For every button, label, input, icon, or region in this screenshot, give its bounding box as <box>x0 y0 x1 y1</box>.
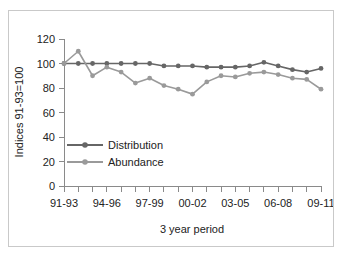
chart-figure: 020406080100120 91-9394-9697-9900-0203-0… <box>0 0 343 257</box>
data-point <box>204 79 209 84</box>
data-point <box>247 71 252 76</box>
y-axis-title: Indices 91-93=100 <box>13 67 25 158</box>
data-point <box>76 61 81 66</box>
data-point <box>219 65 224 70</box>
data-point <box>176 87 181 92</box>
data-point <box>304 77 309 82</box>
line-chart: 020406080100120 91-9394-9697-9900-0203-0… <box>9 11 333 246</box>
x-tick-label: 03-05 <box>221 197 249 209</box>
data-point <box>119 70 124 75</box>
data-point <box>319 66 324 71</box>
data-point <box>304 70 309 75</box>
x-tick-label: 94-96 <box>93 197 121 209</box>
data-point <box>90 73 95 78</box>
chart-legend: DistributionAbundance <box>67 139 164 168</box>
y-tick-label: 40 <box>43 131 55 143</box>
x-axis-title: 3 year period <box>160 223 224 235</box>
data-point <box>76 49 81 54</box>
legend-item-abundance[interactable]: Abundance <box>67 156 164 168</box>
y-tick-label: 80 <box>43 82 55 94</box>
y-tick-label: 120 <box>37 33 55 45</box>
data-point <box>147 76 152 81</box>
data-point <box>162 64 167 69</box>
data-point <box>261 60 266 65</box>
series-abundance <box>62 49 324 97</box>
legend-item-distribution[interactable]: Distribution <box>67 139 163 151</box>
y-tick-label: 100 <box>37 58 55 70</box>
data-point <box>190 92 195 97</box>
data-point <box>233 75 238 80</box>
x-axis-ticks <box>64 186 321 192</box>
legend-swatch-marker <box>82 142 88 148</box>
data-point <box>204 65 209 70</box>
data-point <box>319 87 324 92</box>
data-point <box>133 61 138 66</box>
x-tick-label: 97-99 <box>136 197 164 209</box>
data-point <box>90 61 95 66</box>
legend-label: Abundance <box>108 156 164 168</box>
series-layer <box>62 49 324 97</box>
y-tick-label: 20 <box>43 156 55 168</box>
y-tick-label: 60 <box>43 107 55 119</box>
data-point <box>147 61 152 66</box>
data-point <box>62 61 67 66</box>
legend-label: Distribution <box>108 139 163 151</box>
series-distribution <box>62 60 324 75</box>
x-tick-label: 06-08 <box>264 197 292 209</box>
data-point <box>219 73 224 78</box>
series-path <box>64 51 321 94</box>
data-point <box>233 65 238 70</box>
data-point <box>290 76 295 81</box>
data-point <box>261 70 266 75</box>
data-point <box>190 64 195 69</box>
data-point <box>119 61 124 66</box>
data-point <box>133 81 138 86</box>
x-tick-label: 00-02 <box>178 197 206 209</box>
y-axis-ticks: 020406080100120 <box>37 33 64 192</box>
data-point <box>247 64 252 69</box>
x-tick-label: 09-11 <box>307 197 333 209</box>
data-point <box>276 72 281 77</box>
data-point <box>162 83 167 88</box>
data-point <box>290 67 295 72</box>
data-point <box>176 64 181 69</box>
chart-frame: 020406080100120 91-9394-9697-9900-0203-0… <box>8 10 334 247</box>
data-point <box>276 64 281 69</box>
data-point <box>104 65 109 70</box>
x-axis-tick-labels: 91-9394-9697-9900-0203-0506-0809-11 <box>50 197 333 209</box>
legend-swatch-marker <box>82 159 88 165</box>
x-tick-label: 91-93 <box>50 197 78 209</box>
y-tick-label: 0 <box>49 180 55 192</box>
